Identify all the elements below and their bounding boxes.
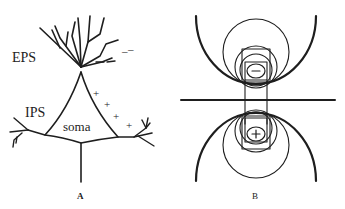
panel-a-neuron: – – EPS IPS soma + + + + A xyxy=(10,16,154,201)
soma-label: soma xyxy=(63,119,91,134)
positive-charge: + xyxy=(113,110,119,122)
positive-charge: + xyxy=(93,87,99,99)
positive-charge: + xyxy=(104,98,110,110)
top-outer-arc xyxy=(196,16,316,84)
bottom-outer-arc xyxy=(196,113,316,181)
ips-label: IPS xyxy=(25,105,45,120)
right-basal-branches xyxy=(134,118,154,146)
eps-label: EPS xyxy=(12,50,36,65)
panel-a-caption: A xyxy=(77,191,84,201)
figure-canvas: – – EPS IPS soma + + + + A xyxy=(0,0,345,209)
panel-b-caption: B xyxy=(252,191,258,201)
apical-dendrites xyxy=(40,16,118,67)
left-basal-branches xyxy=(10,118,28,147)
top-large-circle xyxy=(223,19,289,85)
negative-charges: – xyxy=(127,43,134,55)
panel-b-dipole: B xyxy=(181,16,335,201)
bottom-large-circle xyxy=(223,112,289,178)
positive-charge: + xyxy=(126,119,132,131)
negative-charges: – xyxy=(121,45,128,57)
